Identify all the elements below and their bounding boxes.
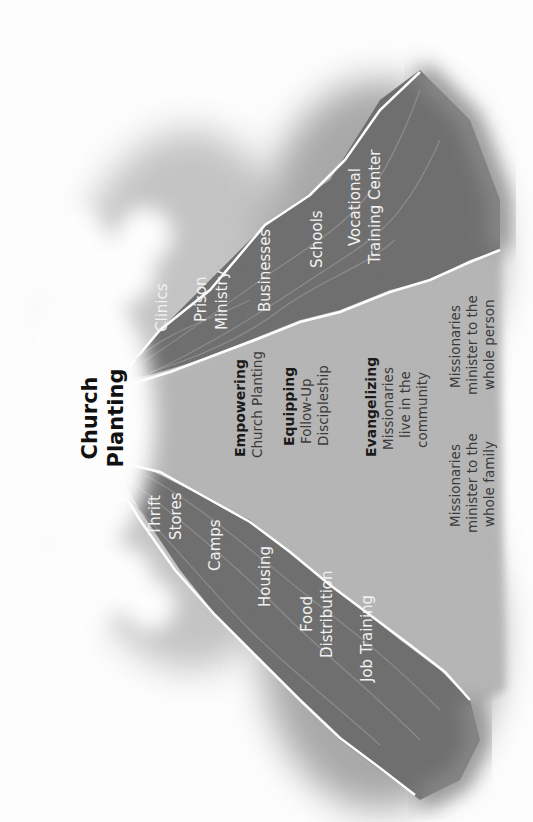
stage-equipping-text-1: Follow-Up <box>298 378 314 444</box>
stage-empowering: Empowering Church Planting <box>232 351 265 458</box>
label-vocational: Vocational <box>346 168 364 246</box>
label-clinics: Clinics <box>153 283 171 332</box>
label-ministry: Ministry <box>213 270 231 330</box>
note-person-line-2: minister to the <box>464 295 480 395</box>
note-person-line-3: whole person <box>481 300 497 390</box>
label-housing: Housing <box>256 546 274 607</box>
label-prison: Prison <box>192 276 210 322</box>
note-person-line-1: Missionaries <box>447 305 463 388</box>
label-job-training: Job Training <box>358 595 376 683</box>
stage-equipping-text-2: Discipleship <box>315 365 331 446</box>
stage-evangelizing-text-3: community <box>414 372 430 448</box>
label-businesses: Businesses <box>256 229 274 312</box>
label-schools: Schools <box>308 210 326 268</box>
title-line-1: Church <box>78 376 102 459</box>
note-whole-person: Missionaries minister to the whole perso… <box>447 295 497 395</box>
stage-empowering-heading: Empowering <box>232 359 248 457</box>
stage-equipping-heading: Equipping <box>281 367 297 446</box>
stage-evangelizing-text-1: Missionaries <box>380 367 396 450</box>
label-camps: Camps <box>206 519 224 571</box>
label-thrift: Thrift <box>146 495 164 536</box>
label-distribution: Distribution <box>318 570 336 658</box>
note-whole-family: Missionaries minister to the whole famil… <box>447 433 497 533</box>
label-food: Food <box>298 596 316 632</box>
church-planting-diagram: Church Planting Clinics Prison Ministry … <box>0 0 533 822</box>
note-family-line-3: whole family <box>481 441 497 527</box>
label-stores: Stores <box>167 492 185 540</box>
stage-evangelizing-heading: Evangelizing <box>363 357 379 457</box>
note-family-line-1: Missionaries <box>447 444 463 527</box>
title-line-2: Planting <box>104 369 128 468</box>
note-family-line-2: minister to the <box>464 433 480 533</box>
label-training-center: Training Center <box>366 149 384 265</box>
stage-evangelizing-text-2: live in the <box>397 371 413 438</box>
stage-empowering-text: Church Planting <box>249 351 265 458</box>
